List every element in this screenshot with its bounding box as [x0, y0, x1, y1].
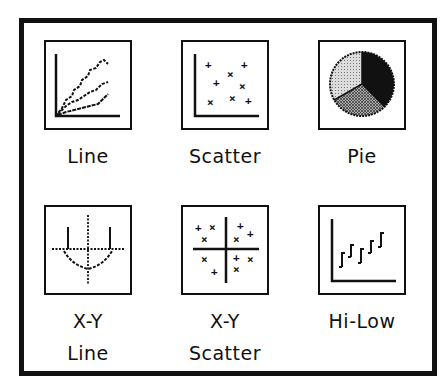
chart-type-label: Scatter	[165, 140, 285, 172]
svg-text:+: +	[205, 58, 212, 71]
svg-text:×: ×	[207, 96, 214, 109]
svg-text:×: ×	[209, 221, 216, 234]
chart-type-palette: Line ++ ×+ ×× +× Scatter	[19, 18, 437, 376]
hi-low-chart-icon[interactable]	[318, 205, 406, 295]
svg-text:×: ×	[201, 253, 208, 266]
svg-text:+: +	[245, 94, 252, 107]
svg-text:×: ×	[201, 233, 208, 246]
line-chart-icon[interactable]	[44, 40, 132, 130]
xy-line-chart-icon[interactable]	[44, 205, 132, 295]
label-line-1: X-Y	[28, 305, 148, 337]
svg-text:×: ×	[233, 233, 240, 246]
svg-text:+: +	[241, 58, 248, 71]
svg-text:+: +	[211, 265, 218, 278]
chart-type-label: Hi-Low	[302, 305, 422, 337]
chart-type-label: Line	[28, 140, 148, 172]
svg-text:+: +	[213, 76, 220, 89]
svg-text:×: ×	[233, 263, 240, 276]
svg-text:+: +	[247, 227, 254, 240]
chart-type-label: X-Y Scatter	[165, 305, 285, 369]
pie-chart-icon[interactable]	[318, 40, 406, 130]
scatter-chart-icon[interactable]: ++ ×+ ×× +×	[181, 40, 269, 130]
svg-text:+: +	[237, 219, 244, 232]
label-line-2: Scatter	[165, 337, 285, 369]
svg-text:×: ×	[229, 92, 236, 105]
label-line-2: Line	[28, 337, 148, 369]
xy-scatter-chart-icon[interactable]: +×× ++× ×+ +××	[181, 205, 269, 295]
label-line-1: X-Y	[165, 305, 285, 337]
chart-type-label: Pie	[302, 140, 422, 172]
svg-text:×: ×	[239, 80, 246, 93]
svg-text:×: ×	[227, 68, 234, 81]
svg-text:×: ×	[247, 253, 254, 266]
chart-type-label: X-Y Line	[28, 305, 148, 369]
